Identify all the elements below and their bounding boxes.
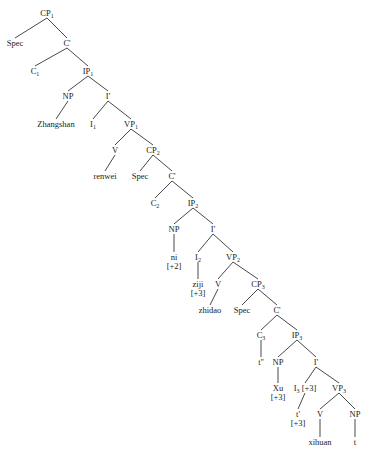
tree-edge [56, 101, 68, 119]
tree-node-tpp: t'' [258, 357, 264, 367]
tree-node-vp2: VP2 [226, 252, 240, 263]
tree-edge [47, 18, 67, 38]
tree-node-ip2: IP2 [188, 198, 199, 209]
tree-node-renwei: renwei [93, 171, 117, 181]
tree-node-t: t [354, 437, 357, 447]
tree-nodes: CP1SpecC'C1IP1NPI'ZhangshanI1VP1VCP2renw… [7, 8, 361, 447]
tree-edge [278, 340, 297, 357]
tree-edge [305, 367, 316, 383]
tree-edge [233, 262, 258, 279]
tree-node-spec2: Spec [132, 171, 149, 181]
tree-edge [108, 101, 131, 119]
tree-edge [218, 262, 233, 279]
tree-node-c2: C2 [151, 198, 160, 209]
tree-node-ip3: IP3 [292, 330, 303, 341]
tree-edge [213, 234, 233, 252]
tree-edge [320, 393, 339, 409]
tree-node-np1: NP [63, 91, 74, 101]
tree-edge [93, 101, 108, 119]
tree-node-cbar2: C' [168, 171, 176, 181]
tree-edge [172, 181, 193, 198]
tree-edge [153, 155, 172, 171]
tree-node-ibar2: I' [211, 224, 216, 234]
tree-edge [298, 393, 305, 409]
tree-edge [88, 76, 108, 91]
tree-node-spec1: Spec [7, 38, 24, 48]
tree-edge [140, 155, 153, 171]
tree-node-cp1: CP1 [40, 8, 53, 19]
tree-node-spec3: Spec [234, 305, 251, 315]
tree-node-cp2: CP2 [146, 145, 159, 156]
tree-node-v3: V [317, 409, 324, 419]
tree-node-cbar1: C' [63, 38, 71, 48]
tree-edge [105, 155, 115, 171]
tree-node-vp1: VP1 [124, 119, 138, 130]
tree-edge [297, 340, 316, 357]
feature-annotation: [+3] [291, 418, 306, 428]
feature-annotation: [+2] [167, 261, 182, 271]
tree-node-cbar3: C' [273, 305, 281, 315]
tree-node-np2: NP [169, 224, 180, 234]
tree-node-ibar1: I' [106, 91, 111, 101]
tree-edge [242, 289, 258, 305]
tree-edge [277, 315, 297, 330]
tree-node-xihuan: xihuan [308, 437, 332, 447]
tree-edge [115, 129, 131, 145]
tree-node-vp3: VP3 [332, 383, 346, 394]
tree-node-cp3: CP3 [251, 279, 264, 290]
tree-node-i1: I1 [90, 119, 96, 130]
tree-edge [155, 181, 172, 198]
tree-edge [261, 315, 277, 330]
tree-node-zhidao: zhidao [199, 305, 222, 315]
tree-node-ip1: IP1 [83, 66, 94, 77]
tree-node-v1: V [112, 145, 119, 155]
tree-edges [15, 18, 355, 437]
tree-edge [258, 289, 277, 305]
tree-node-c1: C1 [31, 66, 40, 77]
tree-edge [174, 208, 193, 224]
tree-edge [193, 208, 213, 224]
tree-edge [131, 129, 153, 145]
tree-edge [198, 234, 213, 252]
tree-edge [210, 289, 218, 305]
tree-node-v2: V [215, 279, 222, 289]
tree-edge [316, 367, 339, 383]
tree-edge [35, 48, 67, 66]
syntax-tree: CP1SpecC'C1IP1NPI'ZhangshanI1VP1VCP2renw… [0, 0, 377, 464]
tree-node-c3: C3 [257, 330, 266, 341]
tree-node-np3: NP [273, 357, 284, 367]
tree-edge [15, 18, 47, 38]
tree-node-i2: I2 [195, 252, 201, 263]
tree-edge [68, 76, 88, 91]
feature-annotation: [+3] [271, 392, 286, 402]
tree-edge [67, 48, 88, 66]
tree-node-zhangshan: Zhangshan [37, 119, 75, 129]
tree-edge [339, 393, 355, 409]
feature-annotation: [+3] [191, 288, 206, 298]
tree-node-i3: I3 [+3] [294, 383, 317, 394]
tree-node-np4: NP [350, 409, 361, 419]
tree-node-ibar3: I' [314, 357, 319, 367]
